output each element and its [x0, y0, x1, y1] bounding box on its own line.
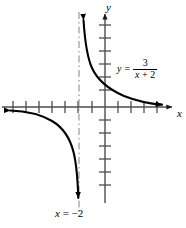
- equation-fraction: 3 x + 2: [133, 58, 157, 80]
- denominator-operator: +: [140, 69, 151, 80]
- curve-left-branch: [10, 111, 78, 199]
- equation-lhs: y: [117, 64, 121, 74]
- equation-annotation: y = 3 x + 2: [117, 58, 157, 80]
- y-axis-label: y: [106, 2, 111, 13]
- x-axis-label: x: [177, 108, 182, 119]
- asymptote-annotation: x = −2: [55, 208, 83, 219]
- y-axis: [99, 14, 111, 203]
- rational-function-graph: y x y = 3 x + 2 x = −2: [0, 0, 186, 228]
- asymptote-value: = −2: [63, 207, 84, 219]
- asymptote-variable: x: [55, 207, 60, 219]
- fraction-denominator: x + 2: [133, 70, 157, 81]
- fraction-numerator: 3: [140, 58, 151, 69]
- equation-equals-sign: =: [123, 64, 131, 74]
- plot-area: [0, 0, 186, 228]
- denominator-constant: 2: [150, 69, 155, 80]
